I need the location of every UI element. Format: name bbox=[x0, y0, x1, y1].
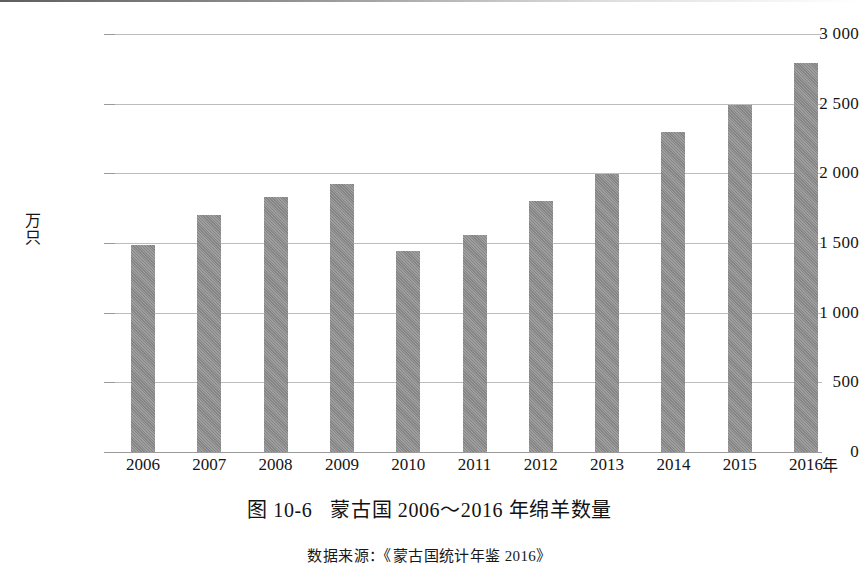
gridline-0 bbox=[108, 452, 822, 453]
x-tick-label-2013: 2013 bbox=[577, 455, 637, 475]
bar-2016[interactable] bbox=[794, 63, 818, 452]
y-tick-label-3000: 3 000 bbox=[761, 25, 859, 42]
figure-number: 图 10-6 bbox=[247, 499, 312, 521]
y-tick-mark-500 bbox=[104, 382, 115, 383]
x-tick-label-2012: 2012 bbox=[511, 455, 571, 475]
x-tick-label-2009: 2009 bbox=[312, 455, 372, 475]
bar-2013[interactable] bbox=[595, 174, 619, 452]
y-tick-mark-3000 bbox=[104, 34, 115, 35]
x-tick-label-2007: 2007 bbox=[179, 455, 239, 475]
bar-2006[interactable] bbox=[131, 245, 155, 452]
figure-root: 05001 0001 5002 0002 5003 000 万只 2006200… bbox=[0, 0, 859, 584]
x-axis-unit-label: 年 bbox=[822, 456, 838, 476]
bar-2008[interactable] bbox=[264, 197, 288, 452]
y-tick-mark-2500 bbox=[104, 104, 115, 105]
gridline-2500 bbox=[108, 104, 822, 105]
y-tick-mark-2000 bbox=[104, 173, 115, 174]
x-tick-label-2010: 2010 bbox=[378, 455, 438, 475]
y-tick-mark-1000 bbox=[104, 313, 115, 314]
bar-2012[interactable] bbox=[529, 201, 553, 452]
bar-2014[interactable] bbox=[661, 132, 685, 452]
figure-caption: 图 10-6蒙古国 2006～2016 年绵羊数量 bbox=[0, 497, 859, 523]
bar-2007[interactable] bbox=[197, 215, 221, 452]
figure-title: 蒙古国 2006～2016 年绵羊数量 bbox=[330, 499, 611, 521]
y-tick-mark-0 bbox=[104, 452, 115, 453]
x-tick-label-2015: 2015 bbox=[710, 455, 770, 475]
y-tick-mark-1500 bbox=[104, 243, 115, 244]
bar-2011[interactable] bbox=[463, 235, 487, 452]
y-axis-title: 万只 bbox=[22, 212, 44, 246]
gridline-2000 bbox=[108, 173, 822, 174]
gridline-3000 bbox=[108, 34, 822, 35]
bar-2009[interactable] bbox=[330, 184, 354, 452]
figure-source-note: 数据来源：《蒙古国统计年鉴 2016》 bbox=[0, 545, 859, 567]
bar-chart-plot-area: 05001 0001 5002 0002 5003 000 万只 2006200… bbox=[0, 0, 859, 470]
x-tick-label-2014: 2014 bbox=[643, 455, 703, 475]
x-tick-label-2008: 2008 bbox=[246, 455, 306, 475]
x-tick-label-2006: 2006 bbox=[113, 455, 173, 475]
x-tick-label-2011: 2011 bbox=[445, 455, 505, 475]
bar-2015[interactable] bbox=[728, 105, 752, 452]
bar-2010[interactable] bbox=[396, 251, 420, 452]
